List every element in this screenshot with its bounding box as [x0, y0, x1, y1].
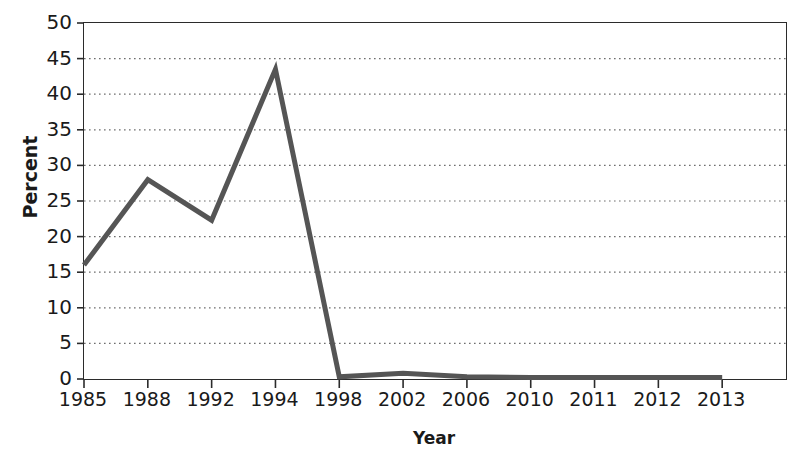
- y-tick-label: 5: [26, 330, 72, 354]
- y-tick-label: 15: [26, 259, 72, 283]
- y-tick-label: 35: [26, 117, 72, 141]
- y-tick-label: 25: [26, 188, 72, 212]
- y-tick-label: 10: [26, 295, 72, 319]
- data-series-line: [84, 23, 786, 379]
- x-tick-label: 2013: [676, 388, 766, 410]
- y-tick-label: 50: [26, 10, 72, 34]
- y-tick-label: 20: [26, 224, 72, 248]
- x-axis-title: Year: [83, 428, 785, 448]
- y-tick-label: 0: [26, 366, 72, 390]
- y-axis-tick-labels: 05101520253035404550: [0, 22, 72, 378]
- x-axis-tick-labels: 1985198819921994199820022006201020112012…: [83, 388, 785, 422]
- y-tick-label: 40: [26, 81, 72, 105]
- y-tick-label: 45: [26, 46, 72, 70]
- y-tick-label: 30: [26, 152, 72, 176]
- chart-figure: Percent 05101520253035404550 19851988199…: [0, 0, 804, 467]
- plot-area: [83, 22, 787, 380]
